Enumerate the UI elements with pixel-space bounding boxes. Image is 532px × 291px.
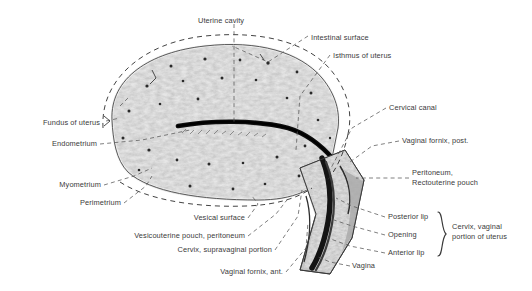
label-uterine-cavity: Uterine cavity [198, 16, 244, 25]
cervix-brace [438, 212, 446, 256]
label-vesical-surface: Vesical surface [165, 213, 245, 222]
label-isthmus-of-uterus: Isthmus of uterus [333, 51, 391, 60]
label-posterior-lip: Posterior lip [388, 212, 428, 221]
anatomical-figure: Uterine cavity Intestinal surface Isthmu… [0, 0, 532, 291]
label-cervix-supravaginal-portion: Cervix, supravaginal portion [122, 245, 272, 254]
label-anterior-lip: Anterior lip [388, 248, 425, 257]
label-perimetrium: Perimetrium [51, 198, 121, 207]
label-vagina: Vagina [352, 261, 375, 270]
label-myometrium: Myometrium [31, 180, 101, 189]
label-peritoneum-rectouterine-pouch: Peritoneum, Rectouterine pouch [412, 168, 508, 187]
label-vaginal-fornix-ant: Vaginal fornix, ant. [183, 267, 283, 276]
label-vaginal-fornix-post: Vaginal fornix, post. [402, 136, 468, 145]
label-vesicouterine-pouch-peritoneum: Vesicouterine pouch, peritoneum [85, 231, 245, 240]
label-cervix-vaginal-portion: Cervix, vaginal portion of uterus [452, 222, 532, 241]
label-endometrium: Endometrium [22, 139, 97, 148]
label-cervical-canal: Cervical canal [389, 103, 437, 112]
label-intestinal-surface: Intestinal surface [311, 33, 369, 42]
label-opening: Opening [388, 230, 417, 239]
label-fundus-of-uterus: Fundus of uterus [10, 118, 100, 127]
